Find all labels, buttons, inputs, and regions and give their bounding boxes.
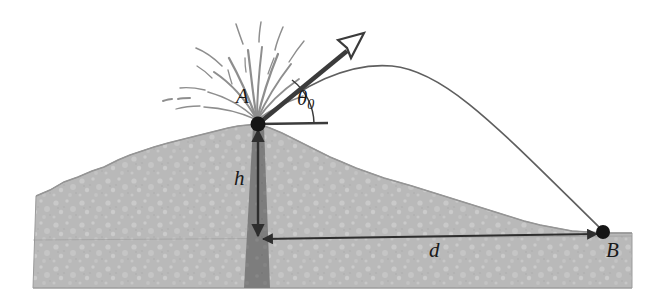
figure-canvas xyxy=(0,0,649,304)
point-a-marker xyxy=(251,117,266,132)
distance-label: d xyxy=(429,240,440,261)
volcano-projectile-figure: A B h d θ0 xyxy=(0,0,649,304)
horizontal-reference-line xyxy=(258,123,328,124)
volcano-mass-shape xyxy=(33,124,632,288)
launch-angle-label: θ0 xyxy=(297,88,314,112)
point-a-label: A xyxy=(236,86,249,107)
height-label: h xyxy=(234,168,245,189)
theta-subscript: 0 xyxy=(307,97,314,112)
theta-symbol: θ xyxy=(297,86,307,110)
point-b-label: B xyxy=(606,240,619,261)
volcano-ground xyxy=(33,124,632,288)
point-b-marker xyxy=(596,225,610,239)
